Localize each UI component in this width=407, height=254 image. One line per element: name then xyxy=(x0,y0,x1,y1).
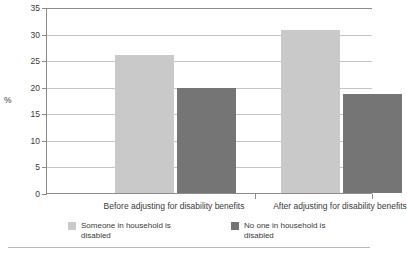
bar-group1-series1 xyxy=(343,94,402,193)
y-tick-label-5: 5 xyxy=(35,162,40,172)
bar-group0-series1 xyxy=(177,88,236,193)
legend-swatch-no-one-disabled xyxy=(231,222,239,230)
plot-area xyxy=(46,8,372,194)
y-tick-25 xyxy=(42,61,47,62)
y-tick-15 xyxy=(42,114,47,115)
y-tick-10 xyxy=(42,141,47,142)
x-axis-category-label-1: After adjusting for disability benefits xyxy=(273,201,407,211)
y-tick-20 xyxy=(42,88,47,89)
legend-label-no-one-disabled: No one in household is disabled xyxy=(244,221,356,241)
x-axis-end-tick xyxy=(372,194,373,199)
y-tick-label-15: 15 xyxy=(31,109,40,119)
y-axis-title: % xyxy=(4,95,12,105)
y-axis-labels: 05101520253035 xyxy=(16,8,40,194)
y-tick-label-30: 30 xyxy=(31,30,40,40)
legend-item-no-one-disabled: No one in household is disabled xyxy=(231,221,356,241)
legend-item-someone-disabled: Someone in household is disabled xyxy=(68,221,193,241)
legend-label-someone-disabled: Someone in household is disabled xyxy=(81,221,193,241)
y-tick-0 xyxy=(42,194,47,195)
x-axis-category-label-0: Before adjusting for disability benefits xyxy=(104,201,245,211)
y-tick-35 xyxy=(42,8,47,9)
bottom-divider xyxy=(8,247,370,248)
y-tick-label-0: 0 xyxy=(35,189,40,199)
y-tick-label-10: 10 xyxy=(31,136,40,146)
y-tick-30 xyxy=(42,35,47,36)
gridline-35 xyxy=(47,8,372,9)
y-tick-label-20: 20 xyxy=(31,83,40,93)
legend-swatch-someone-disabled xyxy=(68,222,76,230)
x-axis-group-separator xyxy=(255,194,256,199)
y-tick-5 xyxy=(42,167,47,168)
bar-group1-series0 xyxy=(281,30,340,193)
bar-group0-series0 xyxy=(115,55,174,193)
y-tick-label-35: 35 xyxy=(31,3,40,13)
y-tick-label-25: 25 xyxy=(31,56,40,66)
